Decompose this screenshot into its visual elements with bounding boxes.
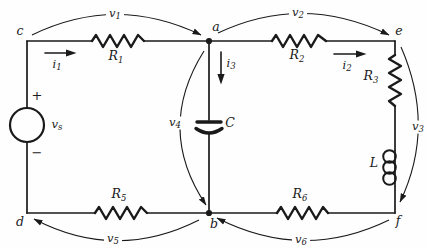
inductor-icon xyxy=(383,150,396,187)
v6-sub: 6 xyxy=(302,237,307,247)
r1-sub: 1 xyxy=(118,55,123,65)
current-label-i1: i1 xyxy=(52,59,61,72)
r2-base: R xyxy=(290,47,299,62)
capacitor-icon xyxy=(196,122,222,133)
node-d-text: d xyxy=(16,214,24,229)
r5-sub: 5 xyxy=(121,193,126,203)
current-arrow-i3 xyxy=(217,52,224,85)
resistor-symbols xyxy=(92,35,401,219)
resistor-R5-label: R5 xyxy=(112,188,127,202)
current-label-i2: i2 xyxy=(342,60,351,73)
capacitor-text: C xyxy=(225,115,235,130)
circuit-artwork xyxy=(0,0,427,248)
v3-sub: 3 xyxy=(419,124,424,134)
node-b-text: b xyxy=(210,216,218,231)
r3-base: R xyxy=(364,68,373,83)
plus-text: + xyxy=(32,88,43,103)
node-a-text: a xyxy=(212,19,219,34)
capacitor-label: C xyxy=(225,117,235,130)
current-arrow-i1 xyxy=(45,49,77,56)
node-label-b: b xyxy=(210,218,218,231)
node-label-c: c xyxy=(16,25,23,38)
circuit-diagram: c a e d b f v1 v2 v3 v4 v5 v6 R1 R2 R3 R… xyxy=(0,0,427,248)
v1-sub: 1 xyxy=(116,11,121,21)
resistor-R3-label: R3 xyxy=(364,70,379,84)
node-label-e: e xyxy=(395,25,402,38)
source-plus-sign: + xyxy=(32,89,43,102)
node-label-d: d xyxy=(16,216,24,229)
voltage-label-v5: v5 xyxy=(104,233,122,246)
minus-text: − xyxy=(32,145,43,160)
node-label-a: a xyxy=(212,21,219,34)
resistor-R3 xyxy=(389,55,401,106)
resistor-R2 xyxy=(272,35,326,47)
r3-sub: 3 xyxy=(373,75,378,85)
i3-sub: 3 xyxy=(230,61,235,71)
v5-sub: 5 xyxy=(114,236,119,246)
node-c-text: c xyxy=(16,23,23,38)
r2-sub: 2 xyxy=(299,54,304,64)
resistor-R2-label: R2 xyxy=(290,49,305,63)
resistor-R6-label: R6 xyxy=(293,188,308,202)
i2-sub: 2 xyxy=(346,63,351,73)
voltage-label-v1: v1 xyxy=(106,8,124,21)
voltage-label-v4: v4 xyxy=(166,117,184,130)
voltage-label-v6: v6 xyxy=(292,234,310,247)
voltage-label-v2: v2 xyxy=(289,7,307,20)
node-dot-a xyxy=(206,38,212,44)
v2-sub: 2 xyxy=(299,10,304,20)
resistor-R1 xyxy=(92,35,144,47)
current-label-i3: i3 xyxy=(226,58,235,71)
current-arrows xyxy=(45,49,367,84)
voltage-source-icon xyxy=(10,108,44,142)
voltage-source-label: vs xyxy=(52,119,63,132)
current-arrow-i2 xyxy=(334,50,367,57)
inductor-label: L xyxy=(370,157,378,170)
i1-sub: 1 xyxy=(56,62,61,72)
resistor-R6 xyxy=(277,207,328,219)
source-minus-sign: − xyxy=(32,146,43,159)
inductor-text: L xyxy=(370,155,378,170)
node-e-text: e xyxy=(395,23,402,38)
r6-base: R xyxy=(293,186,302,201)
node-label-f: f xyxy=(396,215,401,228)
vs-sub: s xyxy=(58,122,62,132)
node-f-text: f xyxy=(396,213,401,228)
r6-sub: 6 xyxy=(302,193,307,203)
r1-base: R xyxy=(109,48,118,63)
wires xyxy=(27,41,395,213)
v4-sub: 4 xyxy=(176,120,181,130)
resistor-R5 xyxy=(95,207,147,219)
resistor-R1-label: R1 xyxy=(109,50,124,64)
r5-base: R xyxy=(112,186,121,201)
voltage-label-v3: v3 xyxy=(409,121,427,134)
